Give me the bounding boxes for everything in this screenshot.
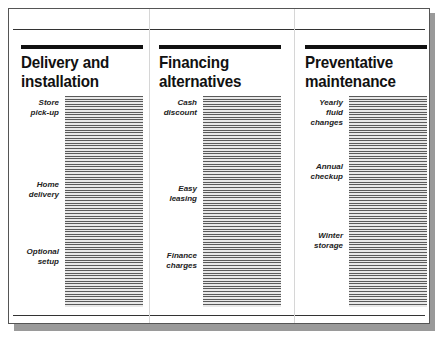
item-label: Homedelivery xyxy=(0,180,59,200)
column-title: Delivery andinstallation xyxy=(21,53,133,91)
column-divider xyxy=(149,9,150,323)
placeholder-text-block xyxy=(203,96,281,307)
item-label: Storepick-up xyxy=(0,98,59,118)
column-maintenance: Preventativemaintenance Yearlyfluidchang… xyxy=(305,45,427,91)
column-title: Financingalternatives xyxy=(159,53,271,91)
item-label: Optionalsetup xyxy=(0,247,59,267)
column-title: Preventativemaintenance xyxy=(305,53,417,91)
heading-bar xyxy=(159,45,281,49)
top-rule xyxy=(13,29,425,30)
heading-bar xyxy=(21,45,143,49)
item-label: Yearlyfluidchanges xyxy=(283,98,343,128)
item-label: Easyleasing xyxy=(137,184,197,204)
heading-bar xyxy=(305,45,427,49)
item-label: Annualcheckup xyxy=(283,162,343,182)
column-delivery: Delivery andinstallation Storepick-up Ho… xyxy=(21,45,143,91)
item-label: Financecharges xyxy=(137,251,197,271)
item-label: Cashdiscount xyxy=(137,98,197,118)
item-label: Winterstorage xyxy=(283,231,343,251)
bottom-rule xyxy=(13,315,425,316)
column-financing: Financingalternatives Cashdiscount Easyl… xyxy=(159,45,281,91)
placeholder-text-block xyxy=(349,96,427,307)
placeholder-text-block xyxy=(65,96,143,307)
brochure-page: Delivery andinstallation Storepick-up Ho… xyxy=(8,8,430,324)
